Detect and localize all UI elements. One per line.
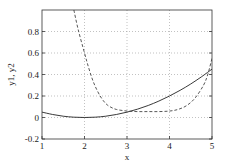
x-axis-label: x — [125, 152, 130, 162]
chart: 12345-0.200.20.40.60.8 x y1, y2 — [0, 0, 226, 166]
x-tick-label: 1 — [40, 141, 45, 151]
y-tick-label: -0.2 — [25, 134, 39, 144]
y-tick-label: 0 — [35, 113, 40, 123]
x-tick-label: 3 — [125, 141, 130, 151]
y-tick-label: 0.6 — [28, 48, 40, 58]
series-layer — [42, 10, 212, 118]
grid — [42, 10, 212, 139]
ticks: 12345-0.200.20.40.60.8 — [25, 27, 215, 152]
x-tick-label: 5 — [210, 141, 215, 151]
y-tick-label: 0.8 — [28, 27, 40, 37]
series-line-y2 — [74, 10, 212, 112]
y-tick-label: 0.4 — [28, 70, 40, 80]
x-tick-label: 2 — [82, 141, 87, 151]
x-tick-label: 4 — [167, 141, 172, 151]
y-axis-label: y1, y2 — [6, 63, 16, 86]
y-tick-label: 0.2 — [28, 91, 39, 101]
